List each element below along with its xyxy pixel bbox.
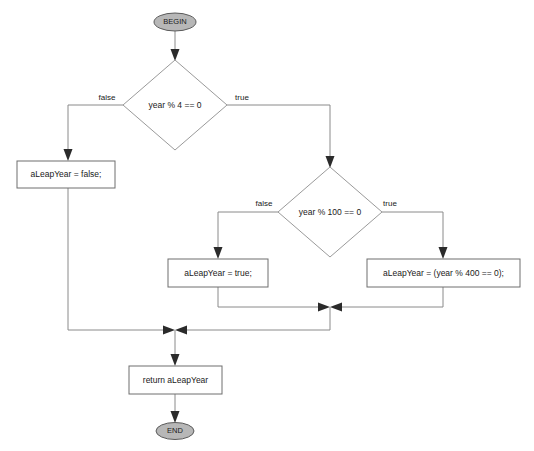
flowchart-canvas: BEGIN year % 4 == 0 aLeapYear = false; y… [0, 0, 534, 451]
edge-setmod400-to-merge1 [338, 287, 443, 307]
edge-decision1-false [68, 105, 123, 152]
edge-settrue-to-merge1 [218, 287, 322, 307]
edge-decision1-true [227, 105, 330, 160]
arrowhead-setfalse-to-merge2 [163, 326, 175, 335]
set-mod-400-label: aLeapYear = (year % 400 == 0); [383, 268, 504, 278]
node-set-true[interactable]: aLeapYear = true; [168, 259, 268, 287]
edge-setfalse-to-merge2 [68, 188, 167, 330]
arrowhead-decision1-false [64, 149, 73, 161]
arrowhead-merge1-to-merge2 [175, 326, 187, 335]
edge-merge1-to-merge2 [183, 307, 330, 330]
edge-decision2-true [382, 212, 443, 250]
node-set-mod-400[interactable]: aLeapYear = (year % 400 == 0); [367, 259, 520, 287]
node-decision-year-mod-100[interactable]: year % 100 == 0 [278, 167, 382, 257]
decision1-label: year % 4 == 0 [149, 100, 202, 110]
node-end[interactable]: END [156, 423, 194, 440]
edge-label-decision2-false: false [256, 199, 273, 208]
edge-label-decision1-true: true [235, 93, 249, 102]
node-decision-year-mod-4[interactable]: year % 4 == 0 [123, 60, 227, 150]
begin-label: BEGIN [163, 17, 186, 26]
arrowhead-settrue-to-merge1 [318, 303, 330, 312]
arrowhead-begin-to-decision1 [171, 49, 180, 61]
arrowhead-decision2-false [214, 247, 223, 259]
end-label: END [167, 426, 183, 435]
arrowhead-setmod400-to-merge1 [330, 303, 342, 312]
edge-decision2-false [218, 212, 278, 250]
arrowhead-decision1-true [326, 156, 335, 168]
set-false-label: aLeapYear = false; [31, 169, 102, 179]
node-return-value[interactable]: return aLeapYear [129, 366, 222, 394]
return-label: return aLeapYear [143, 375, 209, 385]
arrowhead-merge2-to-return [171, 354, 180, 366]
set-true-label: aLeapYear = true; [184, 268, 252, 278]
decision2-label: year % 100 == 0 [299, 207, 362, 217]
flowchart-svg: BEGIN year % 4 == 0 aLeapYear = false; y… [0, 0, 534, 451]
node-set-false[interactable]: aLeapYear = false; [17, 161, 115, 188]
edge-label-decision1-false: false [99, 93, 116, 102]
edge-label-decision2-true: true [383, 199, 397, 208]
arrowhead-decision2-true [439, 247, 448, 259]
arrowhead-return-to-end [171, 411, 180, 423]
node-begin[interactable]: BEGIN [154, 13, 196, 31]
